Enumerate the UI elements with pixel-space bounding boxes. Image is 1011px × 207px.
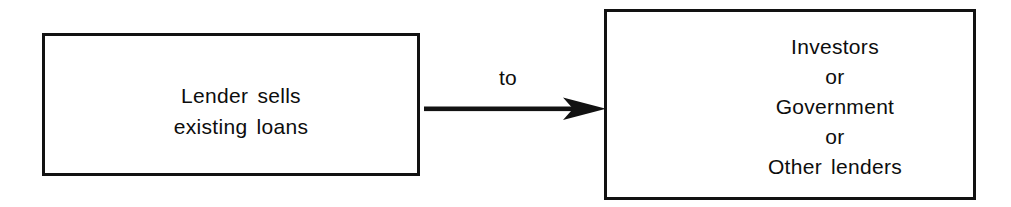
process-box-recipients: Investors or Government or Other lenders xyxy=(604,9,976,200)
arrow-icon xyxy=(424,96,608,122)
process-box-recipients-line-3: Government xyxy=(768,92,902,122)
process-box-recipients-line-1: Investors xyxy=(768,32,902,62)
process-box-lender-text: Lender sells existing loans xyxy=(174,80,308,142)
process-box-lender: Lender sells existing loans xyxy=(42,33,420,176)
process-box-recipients-line-4: or xyxy=(768,122,902,152)
connector-arrow xyxy=(424,96,608,122)
process-box-recipients-line-2: or xyxy=(768,62,902,92)
diagram-canvas: Lender sells existing loans to Investors… xyxy=(0,0,1011,207)
process-box-recipients-text: Investors or Government or Other lenders xyxy=(768,32,902,182)
connector-label-to: to xyxy=(416,66,600,90)
process-box-lender-line-1: Lender sells xyxy=(174,80,308,111)
process-box-recipients-line-5: Other lenders xyxy=(768,152,902,182)
process-box-lender-line-2: existing loans xyxy=(174,111,308,142)
